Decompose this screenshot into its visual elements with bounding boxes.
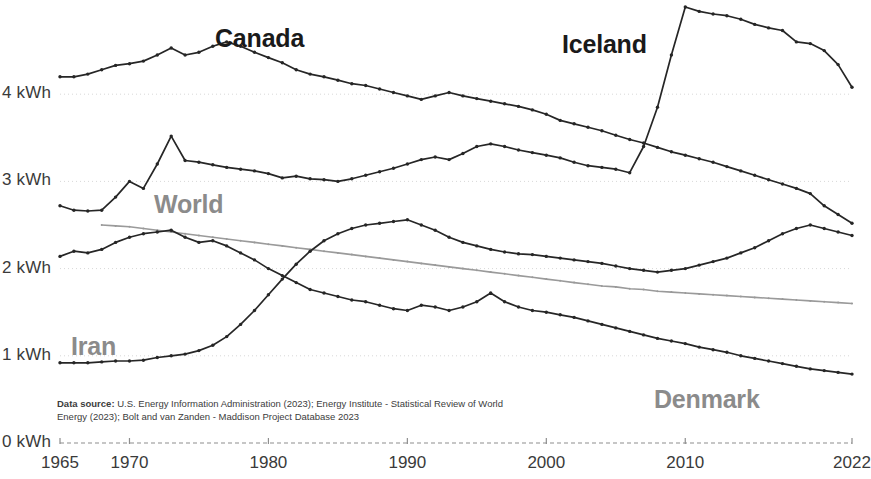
data-point bbox=[739, 18, 742, 21]
data-point bbox=[836, 63, 839, 66]
data-point bbox=[837, 302, 839, 304]
data-point bbox=[739, 251, 742, 254]
data-point bbox=[711, 348, 714, 351]
data-point bbox=[614, 168, 617, 171]
data-point bbox=[267, 293, 270, 296]
data-point bbox=[809, 42, 812, 45]
series-line-iran bbox=[60, 220, 852, 363]
data-point bbox=[378, 170, 381, 173]
data-point bbox=[72, 75, 75, 78]
data-point bbox=[572, 316, 575, 319]
data-point bbox=[212, 236, 214, 238]
data-point bbox=[767, 359, 770, 362]
data-point bbox=[754, 296, 756, 298]
data-point bbox=[281, 274, 284, 277]
data-point bbox=[378, 304, 381, 307]
data-point bbox=[545, 113, 548, 116]
data-point bbox=[656, 146, 659, 149]
data-point bbox=[378, 222, 381, 225]
data-point bbox=[628, 330, 631, 333]
data-point bbox=[531, 108, 534, 111]
data-point bbox=[823, 204, 826, 207]
data-point bbox=[197, 241, 200, 244]
data-point bbox=[142, 59, 145, 62]
data-point bbox=[420, 304, 423, 307]
data-point bbox=[183, 159, 186, 162]
data-point bbox=[86, 209, 89, 212]
data-point bbox=[753, 23, 756, 26]
data-point bbox=[322, 239, 325, 242]
data-point bbox=[531, 253, 534, 256]
data-point bbox=[531, 309, 534, 312]
data-point bbox=[559, 119, 562, 122]
data-point bbox=[114, 195, 117, 198]
data-point bbox=[600, 166, 603, 169]
data-point bbox=[586, 164, 589, 167]
data-point bbox=[628, 267, 631, 270]
data-point bbox=[336, 295, 339, 298]
data-point bbox=[322, 75, 325, 78]
data-point bbox=[489, 291, 492, 294]
data-point bbox=[545, 154, 548, 157]
data-point bbox=[628, 171, 631, 174]
data-point bbox=[823, 369, 826, 372]
x-axis-tick-1970: 1970 bbox=[111, 453, 149, 473]
data-point bbox=[72, 361, 75, 364]
data-point bbox=[572, 161, 575, 164]
data-point bbox=[128, 359, 131, 362]
data-point bbox=[308, 177, 311, 180]
data-point bbox=[308, 288, 311, 291]
data-point bbox=[100, 248, 103, 251]
data-point bbox=[643, 289, 645, 291]
data-point bbox=[850, 86, 853, 89]
data-point bbox=[559, 256, 562, 259]
data-point bbox=[545, 278, 547, 280]
data-point bbox=[642, 145, 645, 148]
data-point bbox=[197, 349, 200, 352]
data-source-note: Data source: U.S. Energy Information Adm… bbox=[57, 397, 527, 423]
data-point bbox=[461, 241, 464, 244]
data-point bbox=[559, 313, 562, 316]
data-point bbox=[86, 251, 89, 254]
data-point bbox=[434, 94, 437, 97]
data-point bbox=[850, 222, 853, 225]
data-point bbox=[601, 285, 603, 287]
data-point bbox=[281, 61, 284, 64]
data-point bbox=[364, 223, 367, 226]
data-point bbox=[600, 323, 603, 326]
data-point bbox=[503, 250, 506, 253]
data-point bbox=[434, 155, 437, 158]
data-point bbox=[489, 248, 492, 251]
data-point bbox=[197, 51, 200, 54]
y-axis-tick-4: 4 kWh bbox=[2, 83, 51, 103]
data-point bbox=[253, 258, 256, 261]
data-point bbox=[253, 169, 256, 172]
data-point bbox=[823, 227, 826, 230]
data-point bbox=[170, 134, 173, 137]
data-point bbox=[295, 281, 298, 284]
data-point bbox=[392, 91, 395, 94]
data-point bbox=[211, 344, 214, 347]
data-point bbox=[393, 259, 395, 261]
data-point bbox=[114, 64, 117, 67]
data-point bbox=[740, 296, 742, 298]
data-point bbox=[586, 319, 589, 322]
data-point bbox=[239, 251, 242, 254]
data-point bbox=[684, 292, 686, 294]
data-point bbox=[531, 276, 533, 278]
series-label-canada: Canada bbox=[215, 24, 304, 53]
y-axis-tick-2: 2 kWh bbox=[2, 258, 51, 278]
data-point bbox=[323, 250, 325, 252]
series-label-world: World bbox=[154, 190, 223, 219]
data-point bbox=[559, 280, 561, 282]
data-point bbox=[670, 269, 673, 272]
data-point bbox=[684, 267, 687, 270]
data-point bbox=[211, 239, 214, 242]
data-point bbox=[670, 339, 673, 342]
data-point bbox=[475, 244, 478, 247]
data-point bbox=[670, 53, 673, 56]
data-point bbox=[572, 258, 575, 261]
data-point bbox=[753, 246, 756, 249]
data-point bbox=[225, 166, 228, 169]
data-point bbox=[795, 365, 798, 368]
